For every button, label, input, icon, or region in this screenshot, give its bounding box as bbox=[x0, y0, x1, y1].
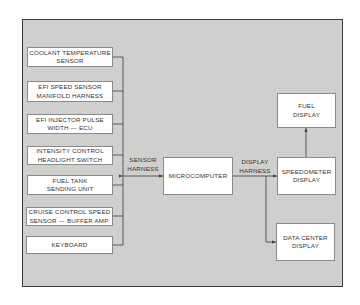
cruise-control-speed-sensor-box: CRUISE CONTROL SPEEDSENSOR — BUFFER AMP. bbox=[26, 207, 113, 226]
efi-speed-sensor-box: EFI SPEED SENSORMANIFOLD HARNESS bbox=[27, 81, 113, 102]
coolant-temperature-sensor-box: COOLANT TEMPERATURESENSOR bbox=[27, 47, 113, 67]
data-center-display-box: DATA CENTERDISPLAY bbox=[276, 223, 335, 261]
fuel-tank-sending-unit-box: FUEL TANKSENDING UNIT bbox=[27, 175, 113, 195]
fuel-display-box: FUELDISPLAY bbox=[277, 93, 336, 128]
display-harness-label: DISPLAYHARNESS bbox=[234, 158, 276, 175]
keyboard-box: KEYBOARD bbox=[26, 236, 113, 254]
speedometer-display-box: SPEEDOMETERDISPLAY bbox=[277, 157, 336, 195]
sensor-harness-label: SENSORHARNESS bbox=[124, 156, 162, 173]
microcomputer-box: MICROCOMPUTER bbox=[163, 157, 233, 195]
intensity-control-box: INTENSITY CONTROLHEADLIGHT SWITCH bbox=[27, 146, 113, 165]
efi-injector-pulse-box: EFI INJECTOR PULSEWIDTH — ECU bbox=[27, 114, 113, 134]
